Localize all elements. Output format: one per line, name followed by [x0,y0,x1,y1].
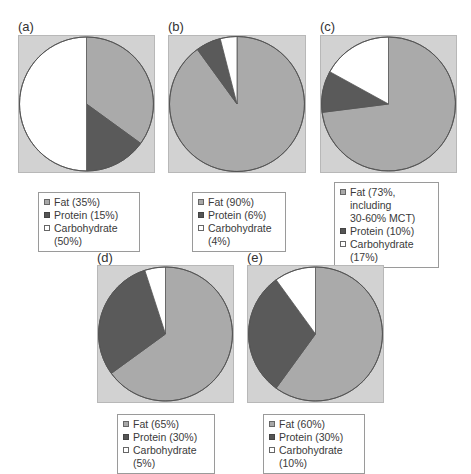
protein-swatch-icon [198,212,204,218]
protein-swatch-icon [340,228,346,234]
protein-swatch-icon [269,434,275,440]
legend-item-fat: Fat (65%) [123,418,209,431]
carbohydrate-swatch-icon [269,447,275,453]
legend-a: Fat (35%) Protein (15%) Carbohydrate (50… [38,192,140,252]
carbohydrate-swatch-icon [340,241,346,247]
panel-label-d: (d) [97,251,113,264]
carbohydrate-slice [20,37,87,171]
legend-item-protein: Protein (10%) [340,225,433,238]
legend-item-protein: Protein (6%) [198,209,280,222]
fat-swatch-icon [269,421,275,427]
pie-chart-a [18,35,155,173]
legend-b: Fat (90%) Protein (6%) Carbohydrate (4%) [192,192,286,252]
legend-item-fat: Fat (90%) [198,196,280,209]
protein-swatch-icon [44,212,50,218]
legend-item-fat: Fat (35%) [44,196,134,209]
panel-label-b: (b) [168,20,184,33]
legend-item-fat: Fat (73%, including30-60% MCT) [340,186,433,225]
carbohydrate-swatch-icon [123,447,129,453]
pie-chart-c [320,35,457,173]
panel-label-c: (c) [320,20,335,33]
legend-item-fat: Fat (60%) [269,418,359,431]
fat-swatch-icon [123,421,129,427]
legend-item-carbohydrate: Carbohydrate (17%) [340,238,433,264]
carbohydrate-swatch-icon [44,225,50,231]
protein-swatch-icon [123,434,129,440]
legend-item-carbohydrate: Carbohydrate (4%) [198,222,280,248]
pie-chart-d [97,265,234,403]
legend-c: Fat (73%, including30-60% MCT) Protein (… [334,182,439,268]
legend-item-carbohydrate: Carbohydrate (50%) [44,222,134,248]
legend-item-carbohydrate: Carbohydrate (10%) [269,444,359,470]
carbohydrate-swatch-icon [198,225,204,231]
panel-label-a: (a) [18,20,34,33]
fat-swatch-icon [340,189,346,195]
legend-item-carbohydrate: Carbohydrate (5%) [123,444,209,470]
legend-d: Fat (65%) Protein (30%) Carbohydrate (5%… [117,414,215,474]
panel-label-e: (e) [247,251,263,264]
fat-swatch-icon [198,199,204,205]
legend-item-protein: Protein (30%) [123,431,209,444]
pie-chart-b [168,35,306,173]
legend-item-protein: Protein (30%) [269,431,359,444]
legend-item-protein: Protein (15%) [44,209,134,222]
fat-swatch-icon [44,199,50,205]
legend-e: Fat (60%) Protein (30%) Carbohydrate (10… [263,414,365,474]
pie-chart-e [247,265,384,403]
